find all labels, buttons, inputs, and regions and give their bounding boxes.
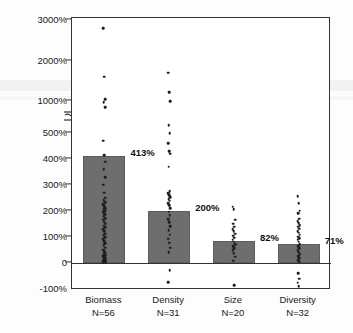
data-point [167, 237, 170, 240]
data-point [233, 208, 236, 211]
category-name: Size [224, 294, 242, 305]
data-point [103, 191, 106, 194]
category-name: Density [152, 294, 184, 305]
data-point [104, 98, 107, 101]
category-sample-size: N=31 [131, 307, 205, 320]
data-point [296, 282, 299, 285]
y-axis-tick-label: 1000% [7, 95, 67, 106]
chart-figure: Percent Increases in Key Biological Meas… [0, 0, 353, 333]
data-point [298, 277, 301, 280]
data-point [167, 229, 170, 232]
x-axis-category-diversity: DiversityN=32 [261, 294, 335, 319]
data-point [103, 75, 106, 78]
data-point [168, 91, 171, 94]
y-axis-tick-label: 2000% [7, 54, 67, 65]
data-point [167, 142, 170, 145]
data-point [104, 160, 107, 163]
data-point [234, 256, 237, 259]
data-point [168, 132, 171, 135]
data-point [168, 233, 171, 236]
data-point [167, 124, 170, 127]
data-point [102, 184, 105, 187]
data-point [169, 152, 172, 155]
data-point [168, 214, 171, 217]
data-point [169, 246, 172, 249]
y-axis-tick-label: 3000% [7, 14, 67, 25]
data-point [169, 225, 172, 228]
data-point [103, 154, 106, 157]
data-point [104, 106, 107, 109]
data-point [167, 281, 170, 284]
data-point [168, 242, 171, 245]
data-point [168, 269, 171, 272]
y-axis-tick-label: 200% [7, 204, 67, 215]
category-sample-size: N=56 [66, 307, 140, 320]
data-point [167, 71, 170, 74]
data-point [169, 100, 172, 103]
data-point [296, 195, 299, 198]
y-axis-tick-label: 400% [7, 152, 67, 163]
x-axis-category-biomass: BiomassN=56 [66, 294, 140, 319]
data-point [168, 221, 171, 224]
data-point [103, 101, 106, 104]
data-point [102, 27, 105, 30]
data-point [167, 218, 170, 221]
y-axis-tick-label: 300% [7, 178, 67, 189]
data-point [297, 272, 300, 275]
y-axis-tick-label: 500% [7, 127, 67, 138]
data-point [298, 261, 301, 264]
data-point [169, 207, 172, 210]
y-axis-tick-label: 100% [7, 230, 67, 241]
data-point [102, 261, 105, 264]
data-point [167, 251, 170, 254]
data-point [234, 219, 237, 222]
category-sample-size: N=20 [196, 307, 270, 320]
category-name: Biomass [85, 294, 121, 305]
bar-value-label: 413% [130, 146, 154, 157]
x-axis-category-density: DensityN=31 [131, 294, 205, 319]
data-point [167, 210, 170, 213]
plot-area: 413%200%82%71% [71, 17, 330, 289]
category-name: Diversity [279, 294, 315, 305]
data-point [297, 202, 300, 205]
data-point [232, 259, 235, 262]
bar-value-label: 200% [195, 201, 219, 212]
bar-value-label: 82% [260, 232, 279, 243]
data-point [102, 139, 105, 142]
data-point [297, 285, 300, 288]
bar-value-label: 71% [325, 235, 344, 246]
y-axis-tick-label: -100% [7, 282, 67, 293]
category-sample-size: N=32 [261, 307, 335, 320]
data-point [233, 252, 236, 255]
data-point [233, 284, 236, 287]
y-axis-tick-label: 0 [7, 256, 67, 267]
data-point [167, 165, 170, 168]
data-point [104, 176, 107, 179]
data-point [297, 212, 300, 215]
data-point [103, 168, 106, 171]
x-axis-category-size: SizeN=20 [196, 294, 270, 319]
zero-baseline [72, 263, 331, 264]
